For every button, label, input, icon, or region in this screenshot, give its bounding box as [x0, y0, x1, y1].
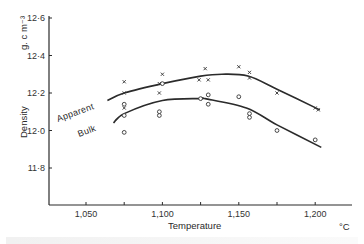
bulk-point-o-marker [122, 130, 126, 134]
apparent-curve-label: Apparent [55, 101, 95, 124]
bulk-point-o-marker [199, 97, 203, 101]
y-tick-label: 11·8 [28, 163, 45, 173]
apparent-fit-curve [107, 74, 319, 110]
x-unit-label: °C [339, 221, 350, 232]
apparent-point-x-marker [158, 91, 161, 94]
bulk-point-o-marker [161, 82, 165, 86]
apparent-point-x-marker [161, 73, 164, 76]
bulk-point-o-marker [157, 114, 161, 118]
x-tick-label: 1,050 [75, 209, 98, 219]
y-tick-label: 12·4 [27, 51, 45, 61]
bulk-point-o-marker [157, 110, 161, 114]
bulk-fit-curve [114, 98, 322, 148]
bulk-point-o-marker [122, 102, 126, 106]
bulk-point-o-marker [248, 115, 252, 119]
bulk-point-o-marker [206, 102, 210, 106]
apparent-point-x-marker [275, 91, 278, 94]
y-axis-title: Density [18, 106, 29, 138]
apparent-point-x-marker [248, 71, 251, 74]
apparent-point-x-marker [237, 65, 240, 68]
fit-curves [107, 74, 321, 147]
y-unit-label: g. c m⁻³ [18, 16, 29, 50]
bulk-point-o-marker [122, 114, 126, 118]
bulk-point-o-marker [248, 112, 252, 116]
y-tick-label: 12·6 [27, 13, 45, 23]
x-tick-label: 1,100 [151, 209, 174, 219]
apparent-point-x-marker [207, 78, 210, 81]
apparent-point-x-marker [204, 67, 207, 70]
apparent-point-x-marker [123, 106, 126, 109]
bulk-curve-label: Bulk [76, 123, 97, 139]
y-tick-label: 12·0 [27, 126, 45, 136]
apparent-point-x-marker [123, 80, 126, 83]
bulk-point-o-marker [313, 138, 317, 142]
apparent-point-x-marker [197, 78, 200, 81]
x-tick-label: 1,150 [228, 209, 251, 219]
figure-caption-cropped [6, 237, 358, 244]
density-chart: 12·612·412·212·011·81,0501,1001,1501,200… [0, 0, 364, 244]
bulk-point-o-marker [237, 95, 241, 99]
y-tick-label: 12·2 [27, 88, 45, 98]
x-tick-label: 1,200 [304, 209, 327, 219]
bulk-point-o-marker [206, 93, 210, 97]
x-axis-title: Temperature [168, 220, 221, 231]
bulk-point-o-marker [275, 129, 279, 133]
